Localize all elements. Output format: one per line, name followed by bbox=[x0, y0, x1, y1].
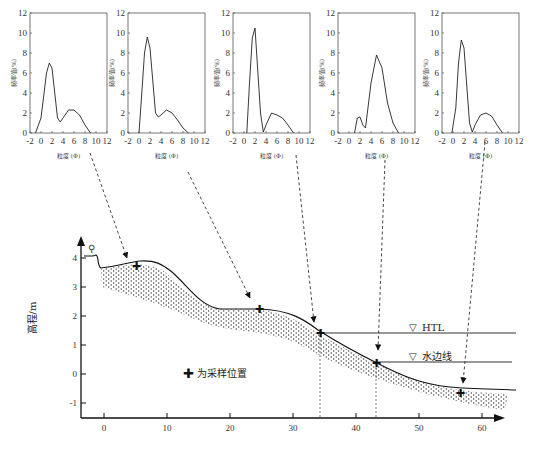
grain-size-axis-label: 粒度 (Φ) bbox=[469, 152, 493, 160]
svg-text:2: 2 bbox=[23, 108, 28, 118]
svg-text:10: 10 bbox=[92, 136, 102, 146]
figure: 024681012-2024681012频率值(%)粒度 (Φ)02468101… bbox=[0, 0, 545, 450]
svg-text:12: 12 bbox=[515, 136, 524, 146]
svg-text:4: 4 bbox=[435, 88, 440, 98]
svg-text:10: 10 bbox=[400, 136, 410, 146]
svg-text:3: 3 bbox=[73, 282, 78, 292]
svg-text:10: 10 bbox=[18, 28, 28, 38]
grain-size-chart-4: 024681012-2024681012频率值(%)粒度 (Φ) bbox=[318, 8, 420, 160]
svg-text:4: 4 bbox=[73, 253, 78, 263]
svg-text:4: 4 bbox=[264, 136, 269, 146]
elevation-label: 高程/m bbox=[26, 301, 38, 334]
vegetation-icon: ⚲ bbox=[88, 243, 95, 254]
svg-text:2: 2 bbox=[462, 136, 467, 146]
svg-text:8: 8 bbox=[495, 136, 500, 146]
svg-text:4: 4 bbox=[121, 88, 126, 98]
svg-text:2: 2 bbox=[50, 136, 55, 146]
svg-text:2: 2 bbox=[73, 311, 78, 321]
svg-text:0: 0 bbox=[137, 136, 142, 146]
sample-point-5: ✚ bbox=[456, 387, 465, 400]
svg-text:6: 6 bbox=[226, 68, 231, 78]
grain-size-chart-1: 024681012-2024681012频率值(%)粒度 (Φ) bbox=[10, 8, 112, 160]
svg-text:4: 4 bbox=[23, 88, 28, 98]
svg-text:10: 10 bbox=[163, 423, 173, 433]
svg-text:12: 12 bbox=[116, 8, 125, 18]
svg-text:50: 50 bbox=[415, 423, 425, 433]
sample-cross-icon: ✚ bbox=[183, 366, 194, 381]
frequency-curve bbox=[247, 28, 294, 133]
svg-text:10: 10 bbox=[190, 136, 200, 146]
svg-text:4: 4 bbox=[61, 136, 66, 146]
frequency-axis-label: 频率值(%) bbox=[213, 59, 221, 87]
frequency-axis-label: 频率值(%) bbox=[108, 59, 116, 87]
svg-text:2: 2 bbox=[331, 108, 336, 118]
svg-text:2: 2 bbox=[148, 136, 153, 146]
waterline-label: 水边线 bbox=[422, 350, 452, 362]
frequency-curve bbox=[355, 55, 399, 133]
svg-text:6: 6 bbox=[380, 136, 385, 146]
sample-point-2: ✚ bbox=[255, 303, 264, 316]
svg-text:6: 6 bbox=[435, 68, 440, 78]
svg-text:-2: -2 bbox=[334, 136, 342, 146]
svg-text:1: 1 bbox=[73, 340, 78, 350]
svg-text:12: 12 bbox=[18, 8, 27, 18]
htl-marker-icon: ▽ bbox=[409, 322, 417, 333]
sediment-layer bbox=[101, 264, 508, 410]
frequency-curve bbox=[139, 37, 189, 133]
svg-text:2: 2 bbox=[121, 108, 126, 118]
svg-text:4: 4 bbox=[226, 88, 231, 98]
svg-text:-2: -2 bbox=[229, 136, 237, 146]
svg-text:0: 0 bbox=[451, 136, 456, 146]
svg-text:20: 20 bbox=[226, 423, 236, 433]
grain-size-axis-label: 粒度 (Φ) bbox=[365, 152, 389, 160]
svg-text:8: 8 bbox=[435, 48, 440, 58]
svg-text:8: 8 bbox=[391, 136, 396, 146]
svg-text:0: 0 bbox=[39, 136, 44, 146]
svg-text:0: 0 bbox=[242, 136, 247, 146]
svg-text:10: 10 bbox=[430, 28, 440, 38]
frequency-axis-label: 频率值(%) bbox=[10, 59, 18, 87]
grain-size-axis-label: 粒度 (Φ) bbox=[155, 152, 179, 160]
htl-label: HTL bbox=[422, 322, 444, 333]
svg-text:-2: -2 bbox=[438, 136, 446, 146]
svg-text:6: 6 bbox=[121, 68, 126, 78]
svg-text:8: 8 bbox=[83, 136, 88, 146]
svg-text:10: 10 bbox=[326, 28, 336, 38]
svg-text:30: 30 bbox=[289, 423, 299, 433]
frequency-curve bbox=[452, 40, 503, 133]
svg-text:10: 10 bbox=[504, 136, 514, 146]
svg-text:-2: -2 bbox=[26, 136, 34, 146]
svg-text:4: 4 bbox=[473, 136, 478, 146]
svg-text:-1: -1 bbox=[70, 398, 78, 408]
svg-text:10: 10 bbox=[116, 28, 126, 38]
svg-text:10: 10 bbox=[221, 28, 231, 38]
svg-text:6: 6 bbox=[23, 68, 28, 78]
profile-chart: -1012340102030405060 高程/m ⚲ ▽ HTL ▽ 水边线 … bbox=[26, 142, 516, 433]
sample-point-1: ✚ bbox=[132, 260, 141, 273]
svg-text:8: 8 bbox=[286, 136, 291, 146]
frequency-axis-label: 频率值(%) bbox=[422, 59, 430, 87]
svg-text:2: 2 bbox=[253, 136, 258, 146]
grain-size-chart-5: 024681012-2024681012频率值(%)粒度 (Φ) bbox=[422, 8, 524, 160]
svg-text:4: 4 bbox=[159, 136, 164, 146]
svg-text:6: 6 bbox=[275, 136, 280, 146]
svg-text:40: 40 bbox=[352, 423, 362, 433]
svg-text:0: 0 bbox=[347, 136, 352, 146]
svg-text:6: 6 bbox=[72, 136, 77, 146]
svg-text:2: 2 bbox=[226, 108, 231, 118]
svg-text:12: 12 bbox=[221, 8, 230, 18]
grain-size-chart-2: 024681012-2024681012频率值(%)粒度 (Φ) bbox=[108, 8, 210, 160]
svg-text:6: 6 bbox=[170, 136, 175, 146]
waterline-marker-icon: ▽ bbox=[409, 351, 417, 362]
svg-text:12: 12 bbox=[326, 8, 335, 18]
frequency-axis-label: 频率值(%) bbox=[318, 59, 326, 87]
svg-text:4: 4 bbox=[369, 136, 374, 146]
grain-size-axis-label: 粒度 (Φ) bbox=[57, 152, 81, 160]
svg-text:12: 12 bbox=[201, 136, 210, 146]
svg-text:0: 0 bbox=[102, 423, 107, 433]
sample-point-4: ✚ bbox=[372, 357, 381, 370]
svg-text:8: 8 bbox=[181, 136, 186, 146]
svg-text:2: 2 bbox=[358, 136, 363, 146]
svg-text:4: 4 bbox=[331, 88, 336, 98]
svg-text:12: 12 bbox=[103, 136, 112, 146]
